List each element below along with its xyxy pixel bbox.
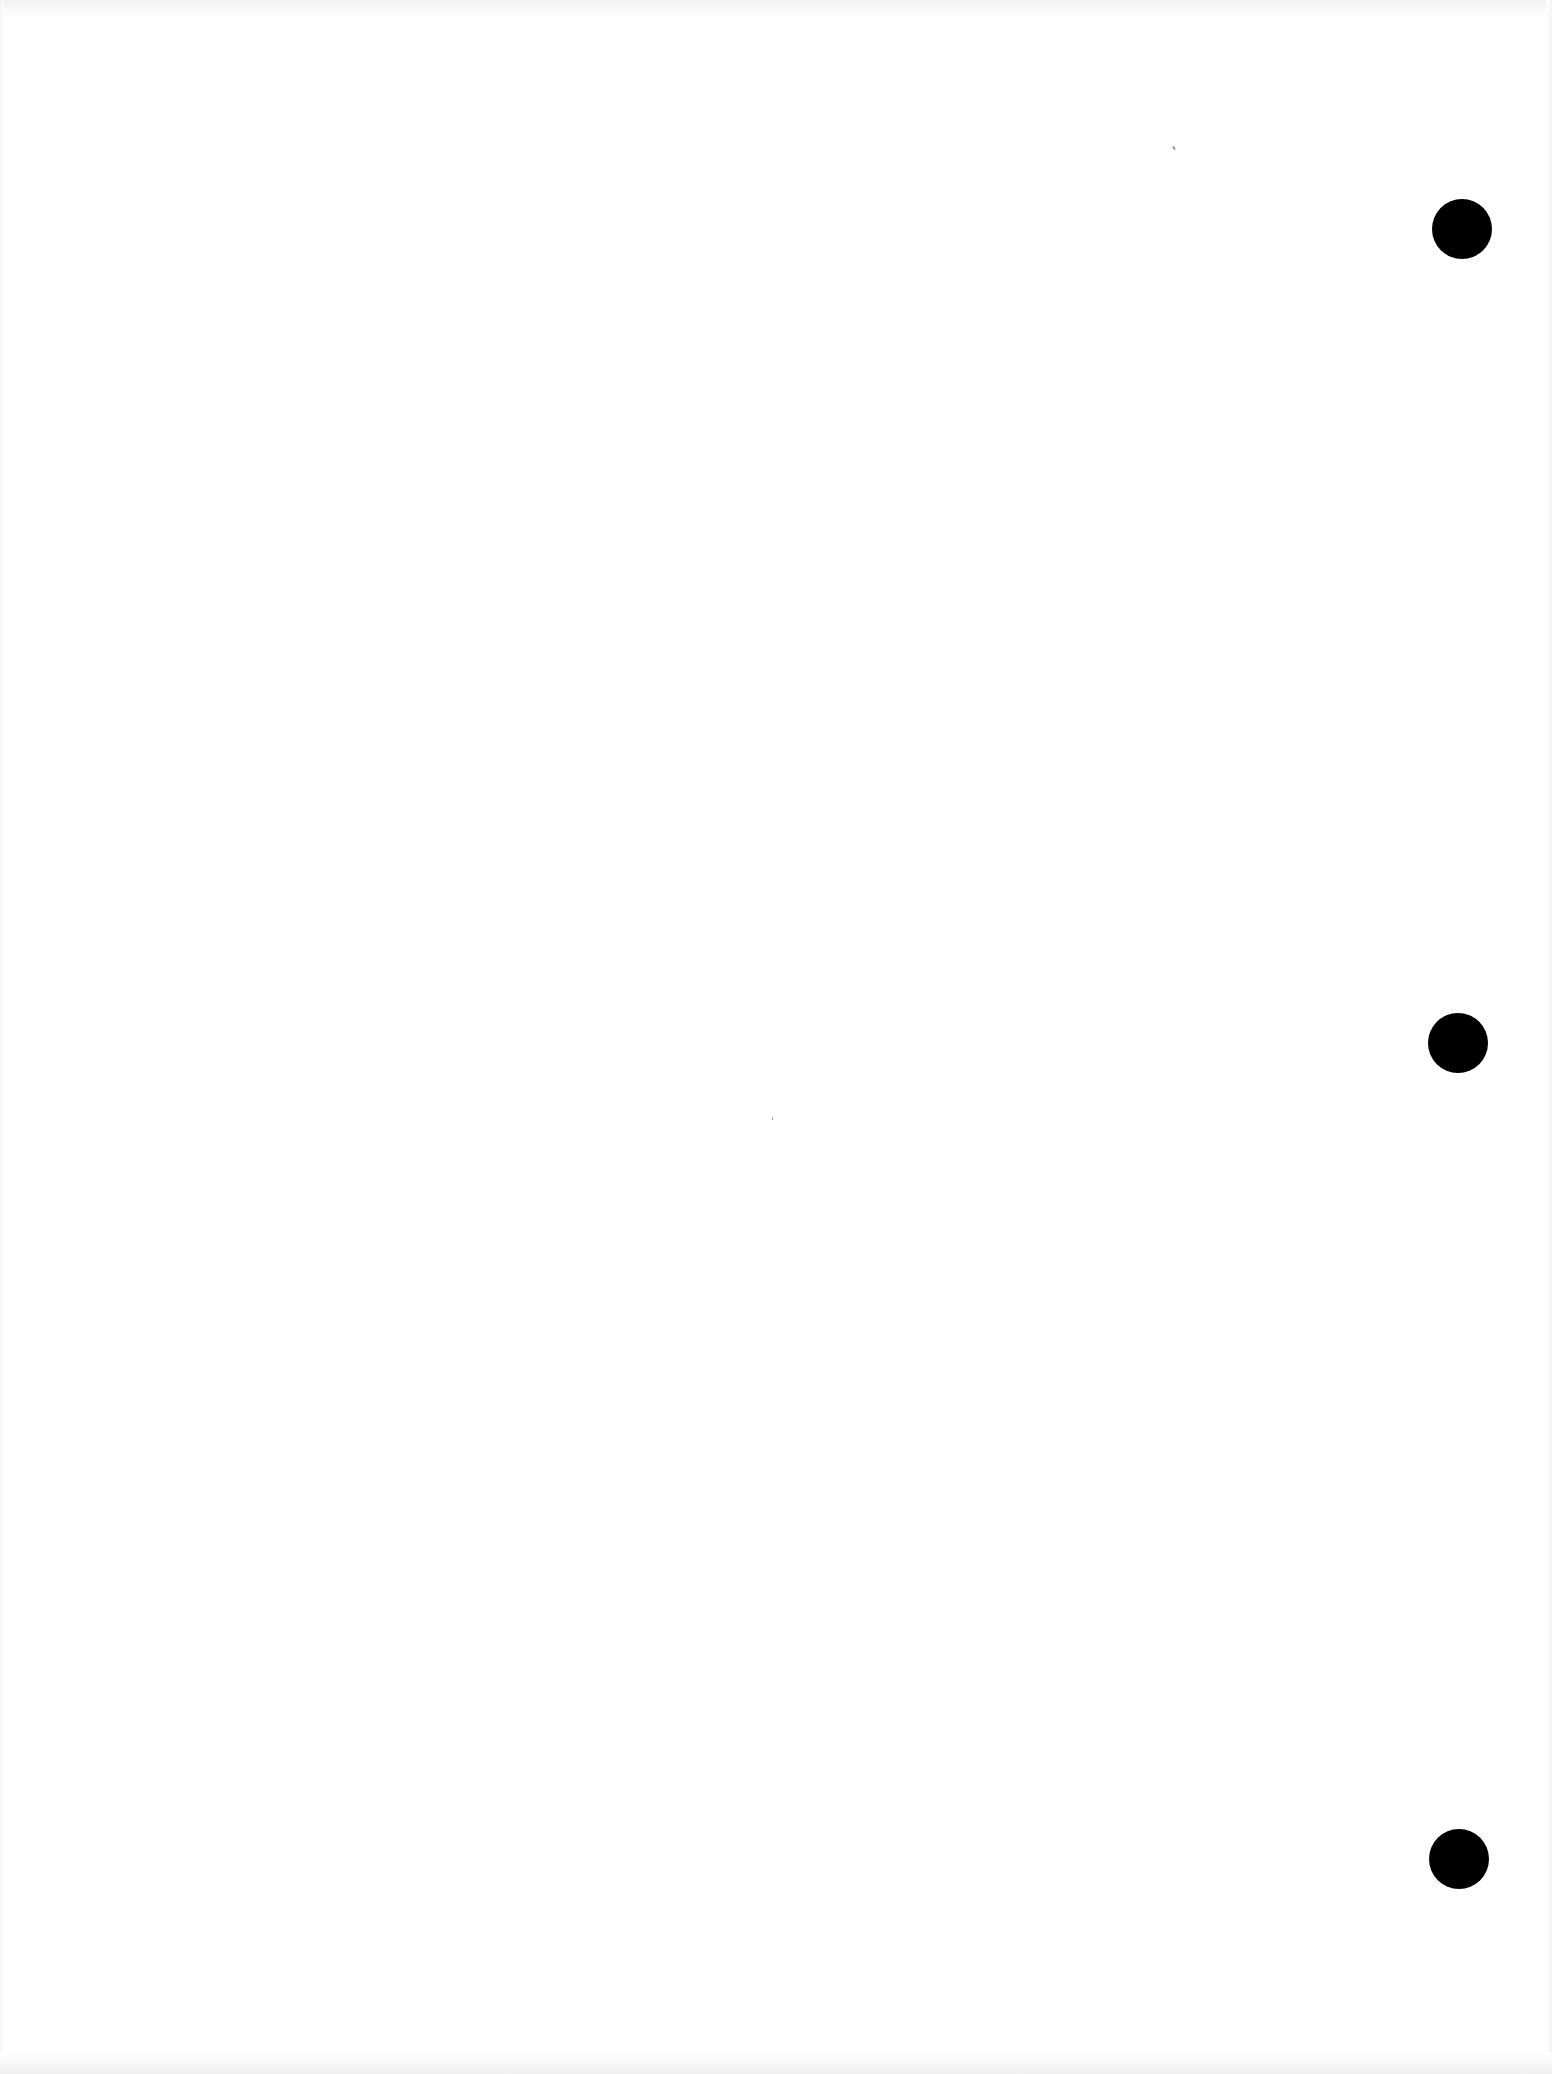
dust-speck <box>772 1117 773 1120</box>
scanned-page <box>0 0 1552 2074</box>
scan-edge-right <box>1546 0 1552 2074</box>
punch-hole-top <box>1432 199 1492 259</box>
scan-edge-left <box>0 0 4 2074</box>
scan-edge-bottom <box>0 2052 1552 2074</box>
scan-edge-top <box>0 0 1552 18</box>
punch-hole-bottom <box>1429 1829 1489 1889</box>
punch-hole-middle <box>1428 1013 1488 1073</box>
dust-speck <box>1172 146 1176 150</box>
